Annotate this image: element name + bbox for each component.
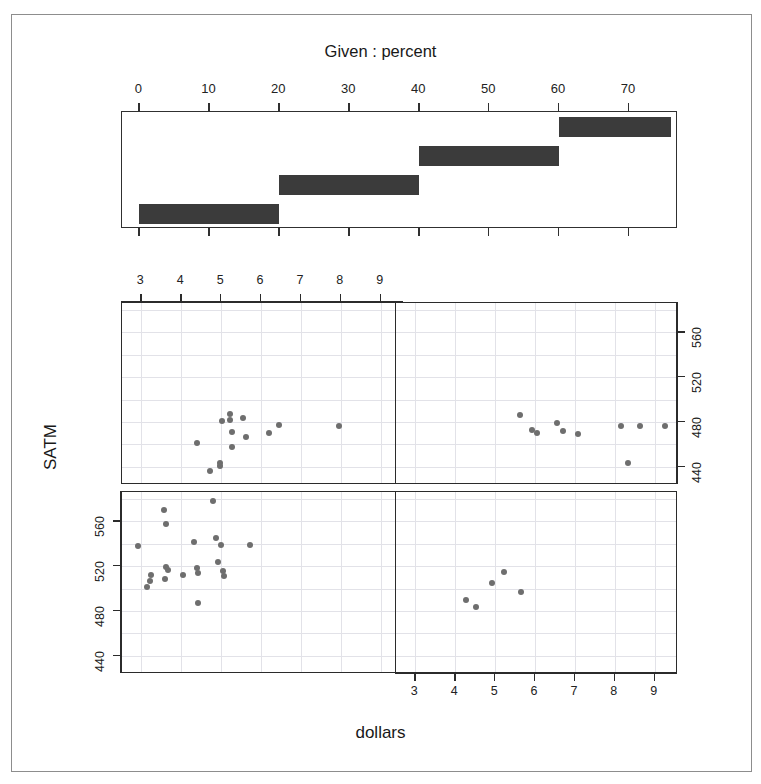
data-point — [161, 507, 167, 513]
given-tick-top — [558, 103, 559, 111]
data-point — [662, 423, 668, 429]
given-tick-bottom — [418, 228, 419, 236]
y-axis-spine-left — [120, 491, 121, 673]
given-tick-label: 0 — [135, 81, 142, 96]
gridline-vertical — [655, 303, 656, 483]
data-point — [554, 420, 560, 426]
gridline-horizontal — [122, 355, 402, 356]
data-point — [147, 578, 153, 584]
data-point — [229, 429, 235, 435]
data-point — [195, 570, 201, 576]
x-axis-tick-label: 7 — [296, 273, 303, 287]
given-tick-top — [348, 103, 349, 111]
given-tick-bottom — [628, 228, 629, 236]
given-tick-bottom — [208, 228, 209, 236]
data-point — [618, 423, 624, 429]
x-axis-tick-label: 7 — [570, 684, 577, 698]
data-point — [517, 412, 523, 418]
data-point — [135, 543, 141, 549]
x-axis-title: dollars — [0, 723, 761, 743]
gridline-vertical — [381, 492, 382, 672]
y-axis-tick-label: 520 — [93, 561, 107, 582]
gridline-horizontal — [396, 355, 676, 356]
data-point — [637, 423, 643, 429]
data-point — [213, 535, 219, 541]
gridline-vertical — [575, 303, 576, 483]
y-axis-tick-label: 480 — [93, 606, 107, 627]
data-point — [473, 604, 479, 610]
data-point — [266, 430, 272, 436]
gridline-horizontal — [396, 332, 676, 333]
y-axis-tick-label: 480 — [690, 417, 704, 438]
scatter-panel-bottom-left[interactable] — [121, 491, 403, 673]
data-point — [247, 542, 253, 548]
given-tick-top — [278, 103, 279, 111]
y-axis-title: SATM — [41, 424, 61, 470]
data-point — [163, 521, 169, 527]
gridline-vertical — [141, 303, 142, 483]
x-axis-tick-label: 5 — [217, 273, 224, 287]
gridline-vertical — [495, 492, 496, 672]
gridline-horizontal — [396, 422, 676, 423]
given-tick-top — [138, 103, 139, 111]
gridline-horizontal — [122, 400, 402, 401]
data-point — [463, 597, 469, 603]
data-point — [195, 600, 201, 606]
given-tick-bottom — [558, 228, 559, 236]
gridline-horizontal — [396, 656, 676, 657]
data-point — [501, 569, 507, 575]
y-axis-tick-label: 440 — [690, 462, 704, 483]
gridline-horizontal — [396, 499, 676, 500]
panel-matrix: 34567893456789440480520560440480520560 — [121, 302, 677, 673]
data-point — [162, 576, 168, 582]
data-point — [560, 428, 566, 434]
x-axis-tick-label: 6 — [531, 684, 538, 698]
given-tick-label: 40 — [411, 81, 425, 96]
gridline-vertical — [221, 303, 222, 483]
gridline-horizontal — [396, 400, 676, 401]
scatter-panel-bottom-right[interactable] — [395, 491, 677, 673]
given-interval-bar — [139, 204, 279, 224]
x-axis-tick-label: 8 — [610, 684, 617, 698]
gridline-vertical — [301, 303, 302, 483]
gridline-vertical — [341, 492, 342, 672]
y-axis-tick-label: 560 — [690, 328, 704, 349]
y-axis-tick-label: 440 — [93, 651, 107, 672]
data-point — [165, 567, 171, 573]
data-point — [534, 430, 540, 436]
data-point — [180, 572, 186, 578]
x-axis-tick-label: 4 — [451, 684, 458, 698]
gridline-horizontal — [396, 544, 676, 545]
given-tick-label: 60 — [551, 81, 565, 96]
gridline-horizontal — [122, 332, 402, 333]
gridline-vertical — [535, 492, 536, 672]
gridline-vertical — [381, 303, 382, 483]
scatter-panel-top-left[interactable] — [121, 302, 403, 484]
gridline-vertical — [575, 492, 576, 672]
given-panel-title: Given : percent — [0, 42, 761, 61]
data-point — [210, 498, 216, 504]
x-axis-tick-label: 6 — [257, 273, 264, 287]
gridline-horizontal — [396, 611, 676, 612]
gridline-vertical — [261, 303, 262, 483]
x-axis-tick-label: 9 — [650, 684, 657, 698]
y-axis-tick-label: 560 — [93, 517, 107, 538]
gridline-vertical — [181, 492, 182, 672]
x-axis-tick-label: 3 — [411, 684, 418, 698]
gridline-horizontal — [396, 310, 676, 311]
data-point — [221, 573, 227, 579]
data-point — [218, 542, 224, 548]
coplot-figure: Given : percent 010203040506070 34567893… — [0, 0, 761, 784]
x-axis-spine-bottom — [395, 673, 677, 674]
gridline-vertical — [141, 492, 142, 672]
data-point — [229, 444, 235, 450]
data-point — [575, 431, 581, 437]
gridline-vertical — [221, 492, 222, 672]
data-point — [625, 460, 631, 466]
given-tick-bottom — [138, 228, 139, 236]
scatter-panel-top-right[interactable] — [395, 302, 677, 484]
data-point — [489, 580, 495, 586]
gridline-vertical — [181, 303, 182, 483]
gridline-horizontal — [122, 422, 402, 423]
given-tick-top — [628, 103, 629, 111]
